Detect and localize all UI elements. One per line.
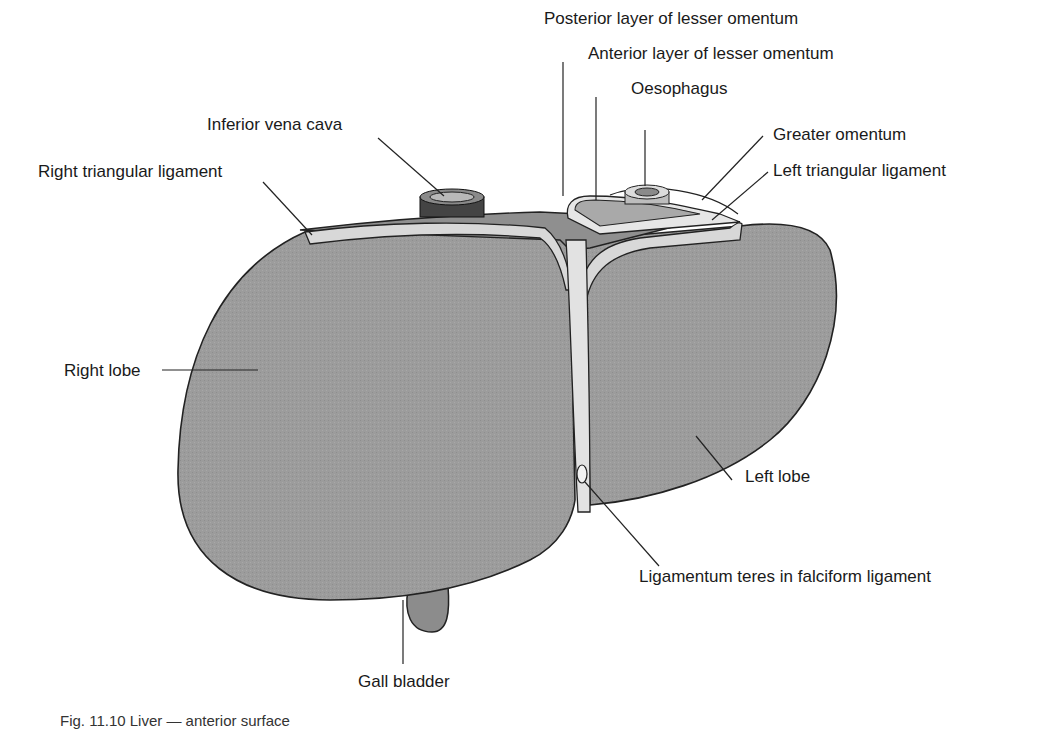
label-oesophagus: Oesophagus xyxy=(631,80,727,97)
label-gall-bladder: Gall bladder xyxy=(358,673,450,690)
label-greater-omentum: Greater omentum xyxy=(773,126,906,143)
oesophagus-shape xyxy=(625,185,669,204)
label-left-lobe: Left lobe xyxy=(745,468,810,485)
label-right-lobe: Right lobe xyxy=(64,362,141,379)
label-left-triangular-ligament: Left triangular ligament xyxy=(773,162,946,179)
label-inferior-vena-cava: Inferior vena cava xyxy=(207,116,342,133)
label-anterior-lesser-omentum: Anterior layer of lesser omentum xyxy=(588,45,834,62)
left-lobe-shape xyxy=(578,224,836,505)
right-lobe-shape xyxy=(178,226,575,600)
label-posterior-lesser-omentum: Posterior layer of lesser omentum xyxy=(544,10,798,27)
label-ligamentum-teres: Ligamentum teres in falciform ligament xyxy=(639,568,931,585)
ligamentum-teres-shape xyxy=(577,465,587,483)
figure-caption: Fig. 11.10 Liver — anterior surface xyxy=(60,712,290,729)
label-right-triangular-ligament: Right triangular ligament xyxy=(38,163,222,180)
inferior-vena-cava-shape xyxy=(420,189,484,217)
